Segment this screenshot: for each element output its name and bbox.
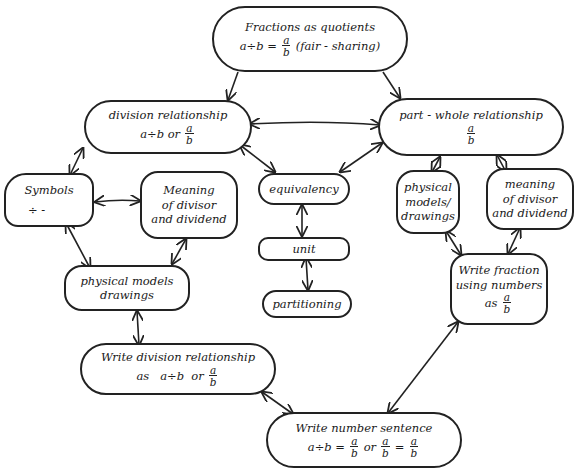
numerator: a: [503, 292, 511, 304]
denominator: b: [185, 134, 194, 146]
formula-prefix: as: [485, 296, 498, 310]
formula: a÷b or a b: [140, 123, 196, 146]
formula: a÷b = a b or a b = a b: [308, 436, 420, 459]
fraction: a b: [185, 123, 194, 146]
node-meaning-divisor-dividend-right: meaning of divisor and dividend: [486, 168, 574, 230]
formula-lhs: a÷b =: [240, 39, 277, 53]
formula: as a b: [485, 292, 514, 315]
denominator: b: [282, 46, 291, 58]
numerator: a: [282, 35, 290, 47]
node-partitioning: partitioning: [262, 290, 352, 318]
fraction: a b: [503, 292, 512, 315]
node-title: Write number sentence: [296, 421, 433, 435]
edge-physical-right-write-fraction: [446, 231, 461, 255]
line: drawings: [401, 209, 455, 223]
edge-division-equivalency: [240, 145, 275, 172]
formula-lhs: a÷b or: [140, 127, 180, 141]
formula: a÷b = a b (fair - sharing): [240, 35, 380, 58]
line: models/: [405, 195, 450, 209]
line: Write fraction: [458, 263, 539, 277]
node-write-number-sentence: Write number sentence a÷b = a b or a b =…: [266, 412, 462, 468]
line: Meaning: [163, 183, 214, 197]
node-title: part - whole relationship: [399, 108, 543, 122]
node-fractions-as-quotients: Fractions as quotients a÷b = a b (fair -…: [212, 6, 408, 72]
formula: as a÷b or a b: [136, 365, 219, 388]
node-physical-models-drawings-left: physical models drawings: [64, 265, 190, 311]
numerator: a: [410, 436, 418, 448]
numerator: a: [467, 123, 475, 135]
node-title: Symbols: [24, 183, 73, 197]
formula-or: or: [364, 440, 376, 454]
line: using numbers: [456, 278, 543, 292]
denominator: b: [209, 376, 218, 388]
node-symbols: Symbols ÷ -: [4, 173, 94, 227]
edge-division-partwhole: [250, 122, 380, 125]
node-title: partitioning: [272, 297, 341, 311]
edge-meaning-left-physical-left: [172, 239, 186, 264]
fraction: a b: [209, 365, 218, 388]
fraction: a b: [467, 123, 476, 146]
edge-partwhole-equivalency: [340, 143, 382, 172]
fraction: a b: [409, 436, 418, 459]
denominator: b: [350, 447, 359, 459]
node-unit: unit: [258, 237, 350, 261]
formula-lhs: a÷b =: [308, 440, 345, 454]
edge-physical-left-write-division: [137, 311, 139, 345]
fraction: a b: [350, 436, 359, 459]
edge-quotients-partwhole: [383, 72, 400, 98]
line: meaning: [505, 177, 555, 191]
line: of divisor: [162, 198, 216, 212]
node-title: Write division relationship: [101, 350, 255, 364]
node-meaning-divisor-dividend-left: Meaning of divisor and dividend: [140, 171, 238, 239]
line: physical: [404, 180, 452, 194]
fraction: a b: [282, 35, 291, 58]
line: and dividend: [492, 206, 567, 220]
node-title: equivalency: [269, 182, 338, 196]
node-title: Fractions as quotients: [245, 20, 375, 34]
line: physical models: [80, 274, 173, 288]
symbol-glyphs: ÷ -: [6, 203, 45, 217]
formula-prefix: as a÷b or: [136, 369, 203, 383]
fraction: a b: [381, 436, 390, 459]
edge-write-division-number-sentence: [262, 392, 293, 414]
numerator: a: [209, 365, 217, 377]
edge-symbols-meaning-left: [95, 200, 140, 202]
numerator: a: [185, 123, 193, 135]
edge-symbols-physical-left: [66, 223, 90, 268]
formula-suffix: (fair - sharing): [296, 39, 381, 53]
node-title: division relationship: [109, 108, 228, 122]
line: of divisor: [503, 192, 557, 206]
node-write-fraction: Write fraction using numbers as a b: [450, 253, 548, 325]
node-physical-models-drawings-right: physical models/ drawings: [396, 170, 460, 234]
edge-unit-partitioning: [306, 258, 308, 290]
line: drawings: [100, 288, 154, 302]
node-write-division-relationship: Write division relationship as a÷b or a …: [80, 343, 276, 395]
numerator: a: [350, 436, 358, 448]
edge-write-fraction-number-sentence: [388, 322, 458, 413]
denominator: b: [503, 303, 512, 315]
denominator: b: [467, 134, 476, 146]
line: and dividend: [151, 212, 226, 226]
denominator: b: [409, 447, 418, 459]
formula-equals: =: [395, 440, 405, 454]
node-title: unit: [292, 242, 315, 256]
edge-quotients-division: [228, 72, 238, 100]
numerator: a: [381, 436, 389, 448]
edge-division-symbols: [70, 148, 83, 175]
node-part-whole-relationship: part - whole relationship a b: [378, 98, 564, 156]
node-division-relationship: division relationship a÷b or a b: [84, 100, 252, 154]
denominator: b: [381, 447, 390, 459]
edge-meaning-right-write-fraction: [508, 228, 520, 254]
node-equivalency: equivalency: [258, 173, 350, 205]
